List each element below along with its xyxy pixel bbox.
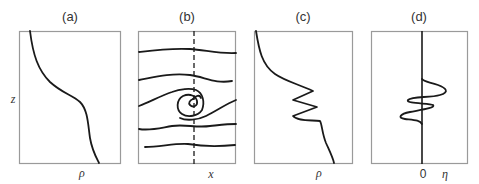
panel-b-streamline-1 bbox=[139, 49, 236, 53]
panel-c-label: (c) bbox=[295, 9, 310, 24]
panel-a-ylabel: z bbox=[10, 92, 16, 106]
panel-d: (d) 0 η bbox=[372, 9, 468, 181]
panel-c-frame bbox=[255, 32, 353, 164]
panel-a-density-curve bbox=[30, 31, 99, 163]
panel-b: (b) x bbox=[139, 9, 237, 181]
panel-d-zero-label: 0 bbox=[420, 167, 427, 181]
panel-b-label: (b) bbox=[179, 9, 195, 24]
panel-b-streamline-6 bbox=[145, 144, 235, 147]
panel-a-frame bbox=[20, 32, 121, 164]
panel-d-label: (d) bbox=[411, 9, 427, 24]
panel-c-density-curve bbox=[256, 31, 334, 163]
figure-canvas: (a) z ρ (b) x (c) ρ (d) 0 η bbox=[0, 0, 479, 184]
panel-d-xlabel: η bbox=[442, 167, 448, 181]
panel-b-streamline-5 bbox=[139, 124, 236, 130]
panel-b-streamline-2 bbox=[139, 74, 232, 81]
panel-c-xlabel: ρ bbox=[315, 166, 322, 180]
panel-b-xlabel: x bbox=[207, 167, 214, 181]
panel-a-xlabel: ρ bbox=[78, 166, 85, 180]
panel-c: (c) ρ bbox=[255, 9, 353, 180]
panel-a-label: (a) bbox=[62, 9, 78, 24]
panel-a: (a) z ρ bbox=[10, 9, 121, 180]
panel-d-displacement-curve bbox=[400, 79, 446, 124]
